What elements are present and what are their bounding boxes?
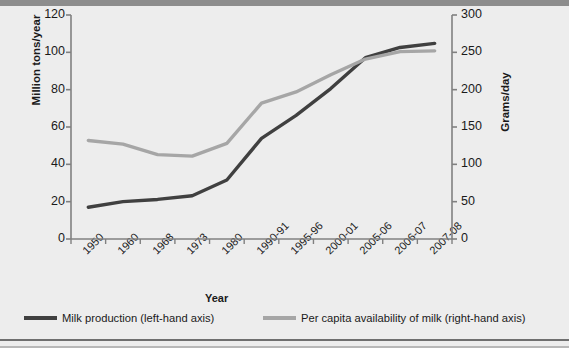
bottom-divider bbox=[0, 339, 569, 341]
series-line bbox=[88, 43, 434, 207]
legend-label: Per capita availability of milk (right-h… bbox=[301, 312, 525, 324]
legend-swatch-line-icon bbox=[263, 316, 296, 320]
legend-item-per-capita-availability: Per capita availability of milk (right-h… bbox=[263, 312, 525, 324]
chart-legend: Milk production (left-hand axis) Per cap… bbox=[18, 312, 558, 332]
legend-swatch-line-icon bbox=[24, 316, 57, 320]
legend-item-milk-production: Milk production (left-hand axis) bbox=[24, 312, 214, 324]
chart-figure: Million tons/year Grams/day Year 0204060… bbox=[0, 0, 569, 348]
plot-canvas bbox=[0, 0, 569, 348]
legend-label: Milk production (left-hand axis) bbox=[62, 312, 214, 324]
